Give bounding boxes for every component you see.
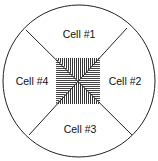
cell-division-diagram: Cell #1 Cell #2 Cell #3 Cell #4	[0, 0, 158, 161]
cell-label-3: Cell #3	[64, 123, 97, 135]
cell-label-4: Cell #4	[16, 75, 49, 87]
cell-label-1: Cell #1	[63, 28, 96, 40]
cell-label-2: Cell #2	[109, 75, 142, 87]
